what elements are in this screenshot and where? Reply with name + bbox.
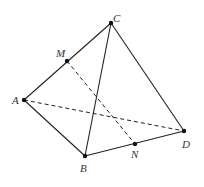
edge-AD-dashed (24, 100, 184, 131)
point-B (83, 154, 87, 158)
label-B: B (80, 162, 87, 174)
tetrahedron-diagram: A B C D M N (0, 0, 204, 187)
label-C: C (113, 12, 121, 24)
edge-CD (111, 23, 184, 131)
label-N: N (130, 148, 139, 160)
point-M (65, 59, 69, 63)
edge-AB (24, 100, 85, 156)
label-M: M (55, 47, 66, 59)
label-A: A (11, 94, 19, 106)
point-D (182, 129, 186, 133)
point-N (133, 142, 137, 146)
label-D: D (181, 138, 190, 150)
point-A (22, 98, 26, 102)
